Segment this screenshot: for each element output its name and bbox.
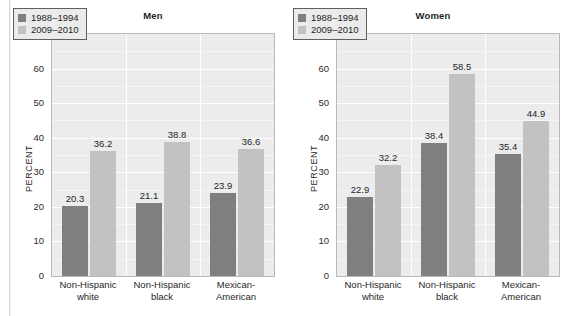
legend-item-1988-1994: 1988–1994	[18, 12, 79, 24]
bar-value-label: 22.9	[351, 184, 370, 195]
y-axis-tick-label: 20	[33, 200, 44, 211]
bar-value-label: 38.4	[425, 130, 444, 141]
y-axis-label-women: PERCENT	[309, 145, 319, 192]
x-axis-category-label: Non-Hispanicblack	[133, 279, 190, 302]
y-axis-tick-label: 30	[318, 166, 329, 177]
legend-swatch-icon-2009-2010	[18, 26, 26, 34]
bar-value-label: 35.4	[499, 141, 518, 152]
plot-area-women: 22.932.238.458.535.444.9	[336, 33, 560, 277]
y-axis-tick-label: 0	[324, 270, 329, 281]
legend-swatch-icon-2009-2010	[298, 26, 306, 34]
legend-swatch-icon-1988-1994	[18, 14, 26, 22]
bar-value-label: 23.9	[214, 180, 233, 191]
bar-value-label: 36.6	[242, 136, 261, 147]
bar-value-labels-women: 22.932.238.458.535.444.9	[337, 34, 559, 276]
bar-value-label: 21.1	[140, 190, 159, 201]
bar-value-label: 36.2	[94, 138, 113, 149]
y-axis-tick-label: 10	[318, 235, 329, 246]
x-axis-category-label: Mexican-American	[501, 279, 541, 302]
bar-value-label: 20.3	[66, 193, 85, 204]
legend-label-2009-2010: 2009–2010	[31, 24, 79, 36]
bar-value-label: 38.8	[168, 129, 187, 140]
y-axis-tick-label: 30	[33, 166, 44, 177]
legend-women: 1988–1994 2009–2010	[293, 8, 367, 40]
y-axis-tick-label: 40	[318, 131, 329, 142]
x-axis-category-label: Mexican-American	[216, 279, 256, 302]
chart-panel-women: Women 010203040506070 PERCENT 22.932.238…	[282, 0, 564, 316]
legend-label-1988-1994: 1988–1994	[311, 12, 359, 24]
legend-item-2009-2010: 2009–2010	[18, 24, 79, 36]
y-axis-tick-label: 60	[318, 62, 329, 73]
y-axis-tick-label: 20	[318, 200, 329, 211]
legend-label-2009-2010: 2009–2010	[311, 24, 359, 36]
y-axis-label-men: PERCENT	[24, 145, 34, 192]
y-axis-tick-label: 10	[33, 235, 44, 246]
legend-item-1988-1994: 1988–1994	[298, 12, 359, 24]
chart-panel-men: Men 010203040506070 PERCENT 20.336.221.1…	[0, 0, 282, 316]
bar-value-label: 58.5	[453, 61, 472, 72]
y-axis-tick-label: 40	[33, 131, 44, 142]
bar-value-label: 44.9	[527, 108, 546, 119]
y-axis-tick-label: 0	[39, 270, 44, 281]
legend-swatch-icon-1988-1994	[298, 14, 306, 22]
y-axis-tick-label: 60	[33, 62, 44, 73]
legend-men: 1988–1994 2009–2010	[13, 8, 87, 40]
x-axis-category-label: Non-Hispanicwhite	[59, 279, 116, 302]
legend-item-2009-2010: 2009–2010	[298, 24, 359, 36]
bar-value-label: 32.2	[379, 152, 398, 163]
plot-area-men: 20.336.221.138.823.936.6	[51, 33, 275, 277]
legend-label-1988-1994: 1988–1994	[31, 12, 79, 24]
x-axis-category-label: Non-Hispanicblack	[418, 279, 475, 302]
bar-value-labels-men: 20.336.221.138.823.936.6	[52, 34, 274, 276]
y-axis-tick-label: 50	[33, 97, 44, 108]
x-axis-category-label: Non-Hispanicwhite	[344, 279, 401, 302]
y-axis-tick-label: 50	[318, 97, 329, 108]
